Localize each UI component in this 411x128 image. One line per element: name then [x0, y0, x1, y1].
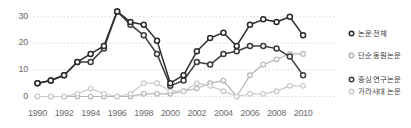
legend-marker-icon — [348, 88, 355, 95]
data-point — [115, 94, 120, 99]
data-point — [234, 43, 239, 48]
data-point — [88, 59, 93, 64]
data-point — [102, 92, 107, 97]
data-point — [301, 73, 306, 78]
legend-item[interactable]: 가라사대 논문 — [348, 88, 401, 95]
data-point — [221, 51, 226, 56]
data-point — [155, 92, 160, 97]
data-point — [248, 92, 253, 97]
data-point — [274, 89, 279, 94]
data-point — [168, 89, 173, 94]
data-point — [48, 78, 53, 83]
data-point — [208, 35, 213, 40]
data-point — [301, 84, 306, 89]
data-point — [274, 57, 279, 62]
data-point — [194, 59, 199, 64]
legend-label: 단순 동원논문 — [358, 52, 401, 59]
data-point — [62, 73, 67, 78]
data-point — [128, 20, 133, 25]
legend-marker-icon — [348, 76, 355, 83]
data-point — [261, 17, 266, 22]
legend-marker-icon — [348, 30, 355, 37]
data-point — [141, 22, 146, 27]
data-point — [221, 78, 226, 83]
data-point — [261, 92, 266, 97]
legend-item[interactable]: 단순 동원논문 — [348, 52, 401, 59]
data-point — [88, 86, 93, 91]
line-chart: 0102030 19901992199419961998200020022004… — [0, 0, 411, 128]
data-point — [181, 73, 186, 78]
data-point — [35, 94, 40, 99]
data-point — [221, 89, 226, 94]
data-point — [181, 78, 186, 83]
series-layer — [35, 9, 306, 99]
data-point — [88, 51, 93, 56]
legend-marker-icon — [348, 52, 355, 59]
data-point — [195, 81, 200, 86]
data-point — [128, 92, 133, 97]
data-point — [141, 81, 146, 86]
data-point — [155, 38, 160, 43]
data-point — [247, 22, 252, 27]
data-point — [208, 62, 213, 67]
data-point — [62, 94, 67, 99]
data-point — [181, 89, 186, 94]
legend-label: 논문 전체 — [358, 30, 387, 37]
data-point — [234, 94, 239, 99]
legend-item[interactable]: 논문 전체 — [348, 30, 387, 37]
data-point — [75, 92, 80, 97]
data-point — [115, 9, 120, 14]
data-point — [247, 43, 252, 48]
data-point — [141, 33, 146, 38]
data-point — [287, 14, 292, 19]
data-point — [155, 51, 160, 56]
data-point — [208, 84, 213, 89]
data-point — [101, 43, 106, 48]
data-point — [287, 54, 292, 59]
legend-item[interactable]: 중심 연구논문 — [348, 76, 401, 83]
data-point — [194, 49, 199, 54]
data-point — [234, 49, 239, 54]
legend-label: 중심 연구논문 — [358, 76, 401, 83]
data-point — [88, 94, 93, 99]
data-point — [274, 20, 279, 25]
chart-legend: 논문 전체단순 동원논문중심 연구논문가라사대 논문 — [348, 0, 411, 128]
data-point — [288, 84, 293, 89]
data-point — [261, 43, 266, 48]
data-point — [221, 30, 226, 35]
data-point — [248, 73, 253, 78]
data-point — [195, 86, 200, 91]
data-point — [168, 81, 173, 86]
data-point — [141, 92, 146, 97]
data-point — [155, 81, 160, 86]
data-point — [301, 33, 306, 38]
data-point — [48, 94, 53, 99]
data-point — [75, 59, 80, 64]
data-point — [261, 62, 266, 67]
data-point — [35, 81, 40, 86]
legend-label: 가라사대 논문 — [358, 88, 401, 95]
data-point — [274, 46, 279, 51]
data-point — [301, 52, 306, 57]
